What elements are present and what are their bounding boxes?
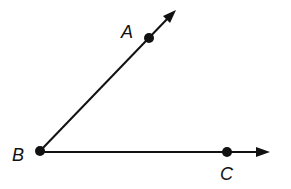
label-c: C <box>220 164 234 184</box>
ray-ba <box>40 10 176 151</box>
point-c <box>222 147 232 157</box>
label-b: B <box>12 145 24 165</box>
point-a <box>144 33 154 43</box>
ray-bc-arrowhead-icon <box>256 147 270 157</box>
ray-bc <box>40 147 270 157</box>
label-a: A <box>120 22 133 42</box>
point-b-vertex <box>35 146 45 156</box>
angle-diagram: A B C <box>0 0 291 189</box>
